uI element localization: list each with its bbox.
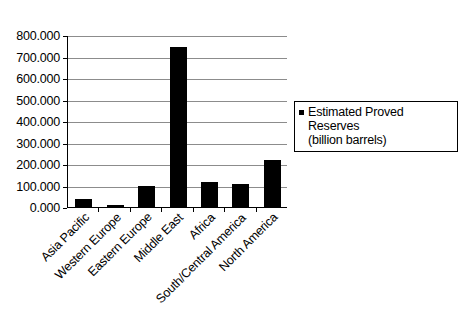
y-axis-tick-mark	[63, 144, 67, 145]
x-axis-tick-mark	[193, 208, 194, 212]
x-axis-category-label: North America	[217, 211, 280, 274]
bar-series	[68, 36, 287, 207]
y-axis-labels: 800.000700.000600.000500.000400.000300.0…	[0, 0, 64, 319]
y-axis-tick-mark	[63, 122, 67, 123]
y-axis-tick-label: 700.000	[16, 52, 60, 64]
y-axis-tick-label: 800.000	[16, 30, 60, 42]
bar	[264, 160, 281, 207]
chart-legend: Estimated Proved Reserves (billion barre…	[294, 101, 458, 152]
bar	[170, 47, 187, 207]
y-axis-tick-mark	[63, 101, 67, 102]
x-axis-tick-mark	[224, 208, 225, 212]
x-axis-tick-mark	[98, 208, 99, 212]
x-axis-category-label: Middle East	[132, 211, 186, 265]
legend-label: Estimated Proved Reserves (billion barre…	[308, 105, 453, 147]
y-axis-tick-label: 300.000	[16, 138, 60, 150]
y-axis-tick-label: 0.000	[30, 202, 60, 214]
y-axis-tick-mark	[63, 187, 67, 188]
x-axis-tick-mark	[256, 208, 257, 212]
x-axis-tick-mark	[130, 208, 131, 212]
plot-area	[67, 36, 287, 208]
y-axis-tick-mark	[63, 208, 67, 209]
y-axis-tick-label: 400.000	[16, 116, 60, 128]
bar	[107, 205, 124, 207]
x-axis-tick-mark	[161, 208, 162, 212]
y-axis-tick-mark	[63, 79, 67, 80]
x-axis-category-label: South/Central America	[154, 211, 249, 306]
y-axis-tick-mark	[63, 165, 67, 166]
bar	[201, 182, 218, 207]
x-axis-category-label: Eastern Europe	[86, 211, 155, 280]
y-axis-tick-mark	[63, 36, 67, 37]
y-axis-tick-label: 500.000	[16, 95, 60, 107]
y-axis-tick-mark	[63, 58, 67, 59]
bar-chart: 800.000700.000600.000500.000400.000300.0…	[0, 0, 470, 319]
bar	[138, 186, 155, 208]
bar	[75, 199, 92, 207]
legend-label-line2: (billion barrels)	[308, 133, 387, 147]
y-axis-tick-label: 600.000	[16, 73, 60, 85]
bar	[232, 184, 249, 207]
y-axis-tick-label: 100.000	[16, 181, 60, 193]
legend-label-line1: Estimated Proved Reserves	[308, 105, 403, 133]
y-axis-tick-label: 200.000	[16, 159, 60, 171]
legend-swatch-icon	[299, 110, 304, 115]
x-axis-category-label: Africa	[187, 211, 218, 242]
